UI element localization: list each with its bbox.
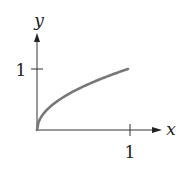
x-axis-label: x bbox=[166, 119, 176, 139]
curve-sqrt-x bbox=[37, 69, 128, 130]
chart: y x 1 1 bbox=[0, 0, 188, 174]
y-axis-label: y bbox=[33, 10, 44, 30]
x-axis-arrow-icon bbox=[152, 127, 162, 133]
x-tick-label: 1 bbox=[125, 142, 136, 162]
y-axis-arrow-icon bbox=[34, 33, 40, 42]
y-tick-label: 1 bbox=[16, 60, 27, 80]
